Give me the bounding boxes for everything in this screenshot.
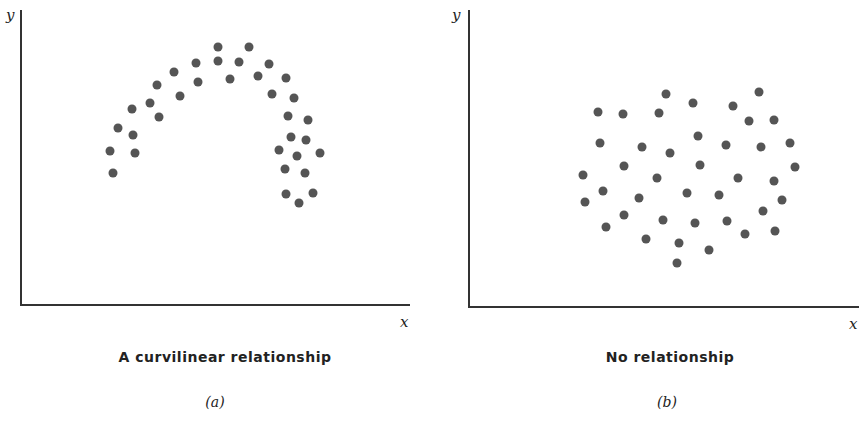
data-point bbox=[755, 88, 764, 97]
data-point bbox=[655, 109, 664, 118]
data-point bbox=[786, 139, 795, 148]
data-point bbox=[594, 108, 603, 117]
data-point bbox=[620, 211, 629, 220]
data-point bbox=[723, 217, 732, 226]
data-point bbox=[581, 198, 590, 207]
data-point bbox=[691, 219, 700, 228]
data-point bbox=[791, 163, 800, 172]
data-point bbox=[599, 187, 608, 196]
data-point bbox=[689, 99, 698, 108]
y-axis-label-b: y bbox=[452, 6, 460, 24]
data-point bbox=[770, 116, 779, 125]
data-point bbox=[620, 162, 629, 171]
data-point bbox=[741, 230, 750, 239]
data-point bbox=[673, 259, 682, 268]
data-point bbox=[757, 143, 766, 152]
data-point bbox=[683, 189, 692, 198]
data-point bbox=[653, 174, 662, 183]
data-point bbox=[729, 102, 738, 111]
data-point bbox=[745, 117, 754, 126]
data-point bbox=[596, 139, 605, 148]
x-axis-label-b: x bbox=[849, 315, 857, 333]
chart-subtitle-b: (b) bbox=[657, 394, 677, 410]
data-point bbox=[705, 246, 714, 255]
data-point bbox=[579, 171, 588, 180]
data-point bbox=[619, 110, 628, 119]
data-point bbox=[696, 161, 705, 170]
data-point bbox=[771, 227, 780, 236]
data-point bbox=[759, 207, 768, 216]
data-point bbox=[642, 235, 651, 244]
data-point bbox=[734, 174, 743, 183]
data-point bbox=[602, 223, 611, 232]
data-point bbox=[722, 141, 731, 150]
chart-title-b: No relationship bbox=[606, 349, 735, 365]
y-axis-b bbox=[468, 10, 470, 308]
data-point bbox=[694, 132, 703, 141]
data-point bbox=[635, 194, 644, 203]
data-point bbox=[666, 149, 675, 158]
data-point bbox=[675, 239, 684, 248]
data-point bbox=[638, 143, 647, 152]
data-point bbox=[662, 90, 671, 99]
data-point bbox=[778, 196, 787, 205]
data-point bbox=[659, 216, 668, 225]
x-axis-b bbox=[468, 306, 859, 308]
data-point bbox=[715, 191, 724, 200]
panel-b: y x No relationship (b) bbox=[0, 0, 859, 422]
data-point bbox=[770, 177, 779, 186]
